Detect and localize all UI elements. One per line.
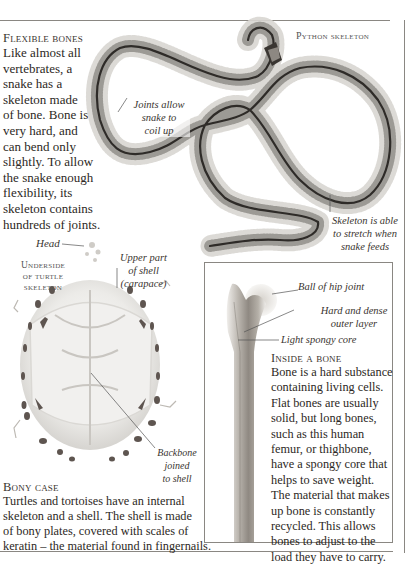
turtle-upper-shell-label: Upper part of shell (carapace) (116, 251, 171, 290)
turtle-head-label: Head (36, 237, 60, 250)
ball-of-hip-joint-label: Ball of hip joint (298, 280, 364, 293)
turtle-head (85, 242, 101, 262)
bony-case-section: Bony case Turtles and tortoises have an … (3, 480, 203, 554)
bony-case-text: Turtles and tortoises have an internal s… (3, 494, 203, 554)
inside-bone-text: Bone is a hard substance containing livi… (271, 365, 393, 565)
spongy-core-label: Light spongy core (281, 333, 356, 346)
bony-case-heading: Bony case (3, 480, 203, 494)
inside-bone-heading: Inside a bone (271, 351, 393, 365)
hard-outer-layer-label: Hard and dense outer layer (318, 304, 390, 330)
inside-bone-section: Inside a bone Bone is a hard substance c… (271, 351, 393, 565)
python-skeleton-title: Python skeleton (296, 30, 369, 41)
python-stretch-label: Skeleton is able to stretch when snake f… (325, 214, 405, 253)
python-joints-label: Joints allow snake to coil up (128, 98, 190, 137)
turtle-skeleton-title: Underside of turtle skeleton (18, 260, 68, 293)
